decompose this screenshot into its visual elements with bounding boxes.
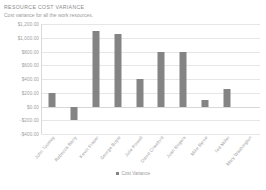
bar[interactable]: [158, 52, 165, 107]
y-axis-tick-label: $0.00: [27, 104, 39, 109]
cost-variance-chart: $1,200.00$1,000.00$800.00$600.00$400.00$…: [3, 21, 263, 187]
bar-slot: [41, 24, 63, 134]
x-axis-category-label: Joan Rogers: [166, 135, 187, 159]
bar-slot: [85, 24, 107, 134]
bar-slot: [194, 24, 216, 134]
x-axis-category-label: Mike Byrne: [190, 135, 209, 157]
y-axis-tick-label: $1,000.00: [18, 35, 39, 40]
x-axis-category-label: Kevin Fraser: [78, 135, 99, 159]
chart-legend: Cost Variance: [3, 171, 263, 176]
x-axis-category-label: David Crawford: [140, 135, 165, 164]
legend-swatch-icon: [116, 172, 120, 176]
bar-slot: [172, 24, 194, 134]
y-axis-tick-labels: $1,200.00$1,000.00$800.00$600.00$400.00$…: [3, 24, 41, 134]
bar[interactable]: [180, 52, 187, 107]
bar-slot: [151, 24, 173, 134]
x-axis-category-label: Ted Miller: [214, 135, 231, 154]
bar[interactable]: [92, 31, 99, 107]
bar-series-cost-variance: [41, 24, 260, 134]
bar[interactable]: [202, 100, 209, 107]
plot-area: [41, 24, 260, 134]
y-axis-tick-label: $400.00: [22, 77, 39, 82]
report-subtitle: Cost variance for all the work resources…: [4, 11, 262, 20]
bar-slot: [238, 24, 260, 134]
bar[interactable]: [114, 34, 121, 106]
bar[interactable]: [136, 79, 143, 107]
x-axis-category-label: Rebecca Barry: [53, 135, 77, 162]
y-axis-tick-label: $1,200.00: [18, 22, 39, 27]
y-axis-tick-label: -$400.00: [20, 132, 39, 137]
bar-slot: [216, 24, 238, 134]
y-axis-tick-label: $800.00: [22, 49, 39, 54]
y-axis-tick-label: -$200.00: [20, 118, 39, 123]
legend-label: Cost Variance: [121, 171, 150, 176]
x-axis-category-label: George Boyle: [99, 135, 122, 161]
bar[interactable]: [48, 93, 55, 107]
y-axis-tick-label: $600.00: [22, 63, 39, 68]
page-title: RESOURCE COST VARIANCE: [4, 3, 262, 11]
bar[interactable]: [70, 107, 77, 121]
bar-slot: [129, 24, 151, 134]
x-axis-category-label: Julie Powell: [123, 135, 143, 158]
resource-cost-variance-report: RESOURCE COST VARIANCE Cost variance for…: [0, 0, 266, 190]
bar-slot: [63, 24, 85, 134]
bar-slot: [107, 24, 129, 134]
x-axis-category-label: John Toomey: [34, 135, 56, 160]
bar[interactable]: [224, 89, 231, 106]
y-axis-tick-label: $200.00: [22, 90, 39, 95]
